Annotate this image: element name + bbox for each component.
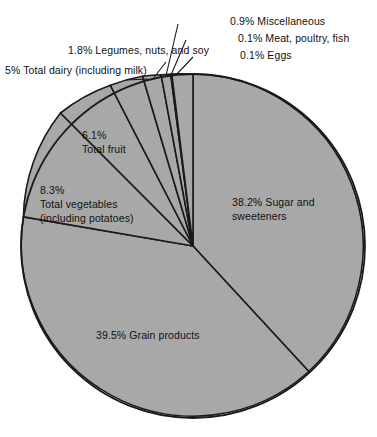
pie-chart-figure: 0.9% Miscellaneous 0.1% Meat, poultry, f… (0, 0, 377, 437)
label-sugar-and-sweeteners-line1: 38.2% Sugar and (232, 196, 315, 209)
pie-slices (21, 74, 365, 418)
label-eggs: 0.1% Eggs (240, 49, 292, 62)
label-total-dairy: 5% Total dairy (including milk) (5, 64, 147, 77)
label-legumes-nuts-soy: 1.8% Legumes, nuts, and soy (68, 44, 209, 57)
label-total-fruit-percent: 6.1% (82, 129, 106, 142)
leader-line-eggs (176, 57, 193, 75)
label-grain-products: 39.5% Grain products (96, 329, 200, 342)
label-total-vegetables-detail: (including potatoes) (40, 212, 134, 225)
label-total-vegetables-name: Total vegetables (40, 198, 117, 211)
label-sugar-and-sweeteners-line2: sweeteners (232, 210, 287, 223)
label-miscellaneous: 0.9% Miscellaneous (230, 15, 325, 28)
label-meat-poultry-fish: 0.1% Meat, poultry, fish (238, 32, 349, 45)
label-total-vegetables-percent: 8.3% (40, 184, 64, 197)
label-total-fruit-name: Total fruit (82, 143, 126, 156)
